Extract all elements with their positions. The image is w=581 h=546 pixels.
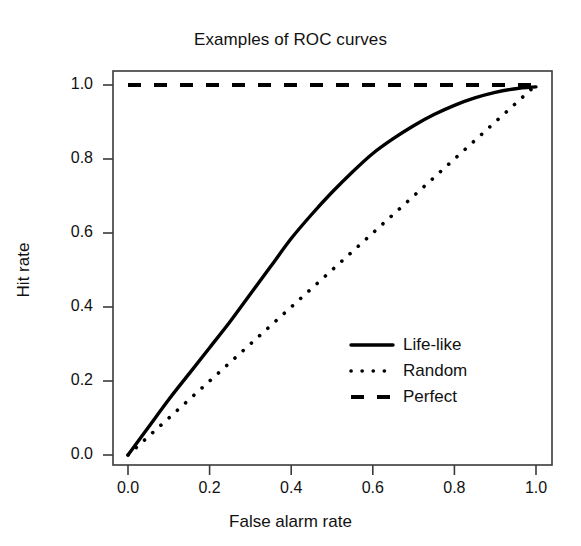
- legend-item-label: Random: [394, 361, 467, 381]
- legend-item-label: Perfect: [394, 387, 457, 407]
- y-tick-label: 0.6: [33, 223, 93, 241]
- x-tick-label: 0.2: [180, 479, 240, 497]
- x-tick-label: 0.6: [343, 479, 403, 497]
- x-tick-label: 0.4: [261, 479, 321, 497]
- y-tick-label: 1.0: [33, 75, 93, 93]
- x-axis-label: False alarm rate: [0, 512, 581, 532]
- y-tick-label: 0.4: [33, 297, 93, 315]
- legend-item[interactable]: Perfect: [350, 384, 520, 410]
- y-axis-label: Hit rate: [14, 200, 34, 340]
- x-tick-label: 0.0: [98, 479, 158, 497]
- legend-item[interactable]: Life-like: [350, 332, 520, 358]
- y-tick-label: 0.8: [33, 149, 93, 167]
- y-tick-label: 0.0: [33, 445, 93, 463]
- legend-line-sample-dotted: [350, 364, 394, 378]
- legend-item[interactable]: Random: [350, 358, 520, 384]
- y-tick-label: 0.2: [33, 371, 93, 389]
- x-tick-label: 0.8: [424, 479, 484, 497]
- chart-legend: Life-likeRandomPerfect: [350, 332, 520, 410]
- roc-curve-figure: Examples of ROC curves Hit rate False al…: [0, 0, 581, 546]
- legend-line-sample-solid: [350, 338, 394, 352]
- x-tick-label: 1.0: [506, 479, 566, 497]
- legend-line-sample-dashed: [350, 390, 394, 404]
- chart-title: Examples of ROC curves: [0, 30, 581, 50]
- legend-item-label: Life-like: [394, 335, 462, 355]
